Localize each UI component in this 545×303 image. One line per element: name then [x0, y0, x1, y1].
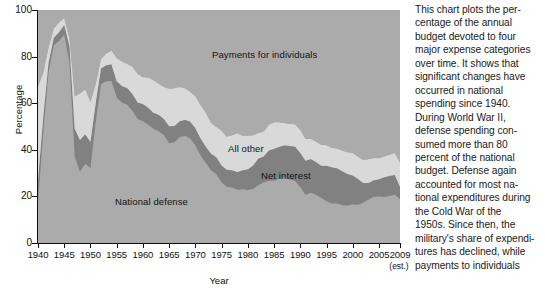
series-label-net-interest: Net interest	[261, 170, 311, 181]
x-tick-label: 1995	[316, 249, 337, 260]
caption-line: major expense categories	[415, 43, 545, 56]
x-tick-mark	[38, 244, 39, 248]
x-tick-label: 1985	[264, 249, 285, 260]
caption-text: This chart plots the per-centage of the …	[415, 3, 545, 272]
x-tick-mark	[64, 244, 65, 248]
series-label-all-other: All other	[228, 143, 264, 154]
caption-line: occurred in national	[415, 84, 545, 97]
y-tick-mark	[32, 103, 37, 104]
caption-line: During World War II,	[415, 111, 545, 124]
y-tick-label: 60	[21, 98, 32, 108]
x-tick-label: 1980	[237, 249, 258, 260]
x-tick-label: 1950	[80, 249, 101, 260]
x-tick-label: 1990	[290, 249, 311, 260]
x-tick-label: 1965	[159, 249, 180, 260]
caption-line: 1950s. Since then, the	[415, 218, 545, 231]
caption-line: tures has declined, while	[415, 245, 545, 258]
x-tick-mark	[143, 244, 144, 248]
caption-line: sumed more than 80	[415, 138, 545, 151]
y-tick-label: 20	[21, 191, 32, 201]
x-tick-label: 2009	[390, 249, 411, 260]
area-series-svg	[38, 10, 400, 243]
y-tick-label: 100	[15, 5, 32, 15]
x-axis-line	[37, 243, 401, 244]
x-tick-label: 2005	[369, 249, 390, 260]
caption-line: centage of the annual	[415, 16, 545, 29]
series-label-national-defense: National defense	[115, 196, 188, 207]
x-tick-mark	[222, 244, 223, 248]
x-tick-label: 1960	[133, 249, 154, 260]
caption-line: budget devoted to four	[415, 30, 545, 43]
caption-line: payments to individuals	[415, 259, 545, 272]
caption-line: tional expenditures during	[415, 191, 545, 204]
x-tick-mark	[117, 244, 118, 248]
x-tick-mark	[353, 244, 354, 248]
caption-line: military's share of expendi-	[415, 232, 545, 245]
x-tick-mark	[195, 244, 196, 248]
caption-line: budget. Defense again	[415, 164, 545, 177]
y-tick-mark	[32, 10, 37, 11]
x-tick-label: 1955	[106, 249, 127, 260]
x-tick-mark	[300, 244, 301, 248]
figure-root: Percentage 020406080100 1940194519501955…	[0, 0, 545, 303]
x-tick-label: 1970	[185, 249, 206, 260]
caption-line: over time. It shows that	[415, 57, 545, 70]
x-tick-label: 1940	[28, 249, 49, 260]
stacked-area-chart: Percentage 020406080100 1940194519501955…	[0, 0, 408, 303]
x-tick-label: 1975	[211, 249, 232, 260]
x-tick-mark	[169, 244, 170, 248]
y-tick-mark	[32, 150, 37, 151]
y-tick-mark	[32, 196, 37, 197]
caption-line: percent of the national	[415, 151, 545, 164]
x-tick-label-note: (est.)	[389, 261, 408, 271]
caption-line: the Cold War of the	[415, 205, 545, 218]
caption-line: defense spending con-	[415, 124, 545, 137]
caption-line: accounted for most na-	[415, 178, 545, 191]
y-tick-mark	[32, 57, 37, 58]
x-tick-mark	[327, 244, 328, 248]
x-tick-mark	[379, 244, 380, 248]
plot-area	[38, 10, 400, 243]
series-label-payments-for-individuals: Payments for individuals	[212, 49, 317, 60]
x-axis-title: Year	[38, 275, 400, 286]
caption-line: This chart plots the per-	[415, 3, 545, 16]
y-tick-label: 80	[21, 52, 32, 62]
x-tick-mark	[400, 244, 401, 248]
x-tick-mark	[274, 244, 275, 248]
caption-line: spending since 1940.	[415, 97, 545, 110]
x-tick-label: 1945	[54, 249, 75, 260]
y-tick-mark	[32, 243, 37, 244]
y-tick-label: 40	[21, 145, 32, 155]
caption-line: significant changes have	[415, 70, 545, 83]
x-tick-mark	[248, 244, 249, 248]
x-tick-label: 2000	[342, 249, 363, 260]
x-tick-mark	[90, 244, 91, 248]
